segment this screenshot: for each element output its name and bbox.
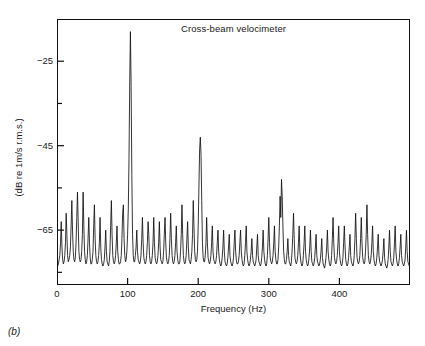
x-tick-label: 400 xyxy=(324,288,354,299)
x-axis-title: Frequency (Hz) xyxy=(57,303,410,314)
x-tick-label: 100 xyxy=(113,288,143,299)
y-tick-label: −45 xyxy=(0,140,53,152)
y-tick-label-text: −25 xyxy=(37,55,53,66)
x-tick-label: 300 xyxy=(254,288,284,299)
x-tick-label: 200 xyxy=(183,288,213,299)
chart-plot-area xyxy=(57,19,410,285)
y-tick-label-text: −45 xyxy=(37,140,53,151)
spectrum-trace xyxy=(57,32,410,268)
panel-caption: (b) xyxy=(8,326,20,337)
figure-panel: Cross-beam velocimeter −25−45−65 0100200… xyxy=(0,0,425,346)
y-tick-label-text: −65 xyxy=(37,224,53,235)
y-tick-label: −65 xyxy=(0,224,53,236)
x-tick-label: 0 xyxy=(42,288,72,299)
axis-ticks xyxy=(57,61,339,285)
y-axis-title: (dB re 1m/s r.m.s.) xyxy=(13,88,24,228)
y-tick-label: −25 xyxy=(0,55,53,67)
